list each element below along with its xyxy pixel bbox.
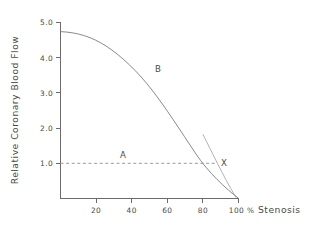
curve-label-b: B — [155, 64, 161, 74]
y-tick-label-3: 3.0 — [40, 89, 53, 98]
y-tick-label-2: 2.0 — [40, 124, 53, 133]
x-tick-label-40: 40 — [127, 206, 137, 215]
coronary-flow-chart: 5.0 4.0 3.0 2.0 1.0 20 40 60 80 100 % B … — [0, 0, 311, 231]
y-tick-label-1: 1.0 — [40, 159, 53, 168]
x-tick-label-80: 80 — [198, 206, 208, 215]
curve-b-coronary-flow — [61, 32, 239, 199]
x-tick-label-20: 20 — [91, 206, 101, 215]
y-axis-title: Relative Coronary Blood Flow — [9, 36, 20, 185]
line-label-a: A — [120, 150, 126, 160]
x-axis-percent-symbol: % — [247, 206, 254, 215]
x-tick-label-60: 60 — [162, 206, 172, 215]
chart-figure: 5.0 4.0 3.0 2.0 1.0 20 40 60 80 100 % B … — [0, 0, 311, 231]
x-tick-label-100: 100 — [229, 206, 244, 215]
intersection-label-x: X — [221, 158, 227, 168]
x-axis-title: Stenosis — [258, 204, 301, 215]
curve-b-shadow-line — [203, 134, 236, 197]
y-tick-label-4: 4.0 — [40, 54, 53, 63]
y-tick-label-5: 5.0 — [40, 18, 53, 27]
